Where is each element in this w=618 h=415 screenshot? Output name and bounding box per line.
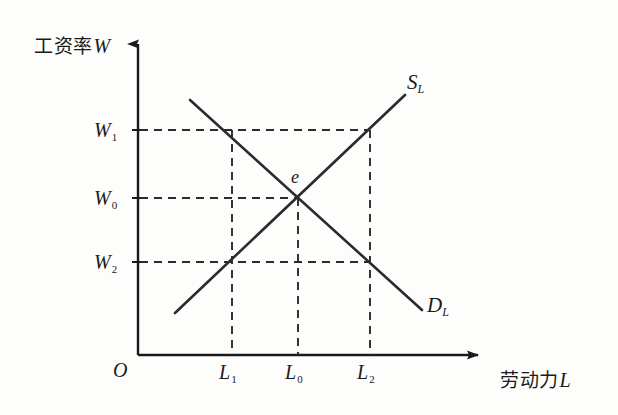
y-tick-label-W0-sub: 0 <box>112 199 118 211</box>
y-tick-label-W2-sub: 2 <box>112 263 118 275</box>
x-tick-label-L0: L0 <box>285 362 302 382</box>
x-tick-label-L1: L1 <box>219 362 236 382</box>
y-tick-label-W1: W1 <box>94 120 116 140</box>
x-tick-label-L2-base: L <box>357 361 368 383</box>
x-axis-title: 劳动力L <box>500 370 571 390</box>
demand-curve <box>190 100 422 310</box>
labor-market-diagram: 工资率W 劳动力L O W1 W0 W2 L1 L0 L2 SL DL e <box>0 0 618 415</box>
supply-curve-label-sub: L <box>418 82 425 96</box>
y-axis-title-var: W <box>93 35 111 57</box>
y-tick-label-W2: W2 <box>94 252 116 272</box>
y-axis-title: 工资率W <box>34 36 111 56</box>
origin-label: O <box>113 360 127 380</box>
y-tick-label-W1-sub: 1 <box>112 131 118 143</box>
x-axis-title-text: 劳动力 <box>500 369 559 391</box>
x-tick-label-L2: L2 <box>357 362 374 382</box>
demand-curve-label: DL <box>427 295 449 316</box>
y-tick-label-W1-base: W <box>94 119 111 141</box>
x-axis-title-var: L <box>559 369 572 391</box>
x-tick-label-L1-base: L <box>219 361 230 383</box>
equilibrium-point-label: e <box>291 168 299 186</box>
demand-curve-label-sub: L <box>442 305 449 319</box>
y-tick-label-W0: W0 <box>94 188 116 208</box>
x-tick-label-L0-base: L <box>285 361 296 383</box>
y-tick-label-W0-base: W <box>94 187 111 209</box>
demand-curve-label-base: D <box>427 293 442 317</box>
x-tick-label-L0-sub: 0 <box>297 373 303 385</box>
x-tick-label-L2-sub: 2 <box>369 373 375 385</box>
y-tick-label-W2-base: W <box>94 251 111 273</box>
y-axis-title-text: 工资率 <box>34 35 93 57</box>
diagram-canvas <box>0 0 618 415</box>
x-tick-label-L1-sub: 1 <box>231 373 237 385</box>
supply-curve-label: SL <box>407 72 424 93</box>
supply-curve-label-base: S <box>407 70 418 94</box>
